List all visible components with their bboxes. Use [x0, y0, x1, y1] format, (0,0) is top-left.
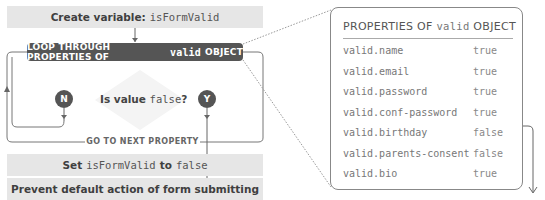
no-branch-marker: N	[55, 90, 73, 108]
property-key: valid.conf-password	[343, 107, 457, 118]
properties-title-var: valid	[436, 20, 469, 32]
property-row: valid.nametrue	[343, 45, 518, 65]
property-key: valid.email	[343, 66, 409, 77]
property-row: valid.emailtrue	[343, 66, 518, 86]
next-property-label: GO TO NEXT PROPERTY	[85, 137, 200, 146]
property-row: valid.parents-consentfalse	[343, 148, 518, 168]
create-variable-step: Create variable: isFormValid	[7, 6, 263, 28]
property-row: valid.birthdayfalse	[343, 127, 518, 147]
property-value: true	[473, 168, 497, 179]
set-value: false	[176, 159, 208, 171]
create-label: Create variable:	[51, 11, 146, 23]
properties-title-suffix: OBJECT	[473, 20, 516, 33]
property-key: valid.birthday	[343, 127, 427, 138]
yes-branch-marker: Y	[198, 90, 216, 108]
property-value: true	[473, 45, 497, 56]
loop-var: valid	[170, 47, 201, 58]
property-row: valid.passwordtrue	[343, 86, 518, 106]
loop-label: LOOP THROUGH PROPERTIES OF	[27, 42, 166, 62]
set-prefix: Set	[62, 159, 82, 171]
property-row: valid.conf-passwordtrue	[343, 107, 518, 127]
decision-value: false	[150, 93, 182, 105]
no-label: N	[60, 94, 68, 104]
property-value: true	[473, 107, 497, 118]
property-value: false	[473, 148, 503, 159]
property-key: valid.parents-consent	[343, 148, 469, 159]
property-row: valid.biotrue	[343, 168, 518, 188]
decision-question: Is value false?	[100, 93, 180, 105]
create-var: isFormValid	[150, 11, 220, 23]
property-value: true	[473, 66, 497, 77]
property-key: valid.name	[343, 45, 403, 56]
set-mid: to	[160, 159, 172, 171]
loop-step: LOOP THROUGH PROPERTIES OF valid OBJECT	[27, 43, 243, 61]
properties-title-prefix: PROPERTIES OF	[343, 20, 433, 33]
property-key: valid.bio	[343, 168, 397, 179]
set-variable-step: Set isFormValid to false	[7, 154, 263, 176]
loop-suffix: OBJECT	[205, 47, 243, 57]
properties-title: PROPERTIES OF valid OBJECT	[343, 20, 516, 33]
yes-label: Y	[204, 94, 211, 104]
prevent-label: Prevent default action of form submittin…	[11, 183, 259, 195]
property-value: true	[473, 86, 497, 97]
properties-divider	[343, 38, 513, 39]
properties-panel: PROPERTIES OF valid OBJECT valid.nametru…	[330, 7, 523, 190]
no-branch-path	[12, 57, 64, 127]
property-value: false	[473, 127, 503, 138]
decision-prefix: Is value	[100, 93, 146, 105]
set-var: isFormValid	[86, 159, 156, 171]
property-key: valid.password	[343, 86, 427, 97]
prevent-default-step: Prevent default action of form submittin…	[7, 178, 263, 200]
decision-suffix: ?	[181, 93, 187, 105]
loop-up-arrow	[4, 86, 10, 92]
